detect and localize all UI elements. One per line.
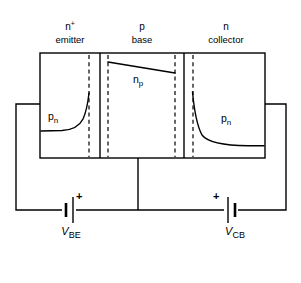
collector-carrier-label: pn	[221, 113, 231, 127]
emitter-type-superscript: +	[71, 20, 75, 27]
base-carrier-label: np	[133, 74, 143, 88]
vcb-subscript: CB	[232, 230, 245, 240]
collector-name-label: collector	[208, 35, 243, 45]
emitter-name-label: emitter	[55, 35, 84, 45]
collector-type-letter: n	[223, 21, 229, 32]
emitter-carrier-subscript: n	[54, 116, 58, 125]
vbe-label: VBE	[61, 226, 80, 240]
collector-terminal-wire	[238, 104, 286, 210]
base-name-label: base	[132, 35, 153, 45]
emitter-type-label: n+	[65, 20, 75, 32]
base-carrier-line	[108, 62, 175, 73]
base-carrier-subscript: p	[139, 79, 143, 88]
vbe-polarity-marker: +	[76, 191, 82, 202]
device-diagram-figure: n+ emitter p base n collector pn np pn +…	[0, 0, 301, 283]
vbe-battery-symbol	[66, 197, 73, 223]
base-type-label: p	[139, 20, 145, 32]
base-type-letter: p	[139, 21, 145, 32]
vcb-polarity-marker: +	[213, 191, 219, 202]
emitter-carrier-label: pn	[48, 111, 58, 125]
collector-carrier-subscript: n	[227, 118, 231, 127]
vbe-subscript: BE	[69, 230, 81, 240]
collector-type-label: n	[223, 20, 229, 32]
vcb-label: VCB	[225, 226, 245, 240]
vcb-battery-symbol	[228, 197, 235, 223]
